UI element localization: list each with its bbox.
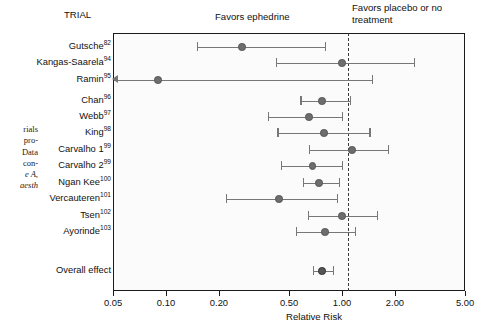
trial-label-webb: Webb97: [79, 110, 111, 121]
point-estimate-marker: [305, 113, 313, 121]
ci-lower-cap: [313, 266, 314, 275]
ci-lower-cap: [296, 227, 297, 236]
ci-lower-cap: [268, 112, 269, 121]
point-estimate-marker: [320, 129, 328, 137]
x-axis-tick: [219, 291, 220, 296]
trial-reference-number: 101: [100, 191, 111, 198]
ci-upper-cap: [339, 178, 340, 187]
ci-lower-cap: [197, 42, 198, 51]
margin-running-text: rials pro- Data con- e A, aesth: [0, 124, 38, 192]
x-axis-tick-label: 5.00: [456, 297, 474, 308]
point-estimate-marker: [238, 43, 246, 51]
point-estimate-marker: [318, 97, 326, 105]
x-axis-tick: [395, 291, 396, 296]
ci-upper-cap: [369, 128, 370, 137]
trial-label-chan: Chan96: [81, 94, 111, 105]
ci-row: [113, 126, 465, 140]
ci-lower-cap: [281, 161, 282, 170]
ci-lower-cap: [276, 58, 277, 67]
ci-row: [113, 225, 465, 239]
margin-line-5: e A,: [0, 169, 38, 180]
favors-placebo-label: Favors placebo or no treatment: [352, 2, 444, 25]
trial-reference-number: 98: [104, 125, 111, 132]
margin-line-2: pro-: [0, 135, 38, 146]
x-axis-title-text: Relative Risk: [286, 311, 342, 322]
trial-label-gutsche: Gutsche82: [69, 40, 111, 51]
trial-label-carvalho-1: Carvalho 199: [58, 143, 111, 154]
ci-row: [113, 73, 465, 87]
ci-lower-cap: [309, 145, 310, 154]
trial-label-ayorinde: Ayorinde103: [63, 225, 111, 236]
ci-row: [113, 94, 465, 108]
trial-name: Kangas-Saarela: [36, 56, 103, 67]
point-estimate-marker: [321, 228, 329, 236]
trial-reference-number: 99: [104, 158, 111, 165]
ci-upper-cap: [355, 227, 356, 236]
ci-upper-cap: [372, 75, 373, 84]
ci-upper-cap: [333, 266, 334, 275]
ci-row: [113, 110, 465, 124]
trial-name: Chan: [81, 94, 103, 105]
x-axis-tick: [342, 291, 343, 296]
point-estimate-marker: [315, 179, 323, 187]
point-estimate-marker: [309, 162, 317, 170]
x-axis-tick-label: 1.00: [333, 297, 351, 308]
point-estimate-marker: [154, 76, 162, 84]
ci-row: [113, 56, 465, 70]
ci-lower-cap: [226, 194, 227, 203]
ci-lower-cap: [308, 211, 309, 220]
trial-column-header: TRIAL: [64, 9, 91, 20]
trial-reference-number: 97: [104, 109, 111, 116]
ci-upper-cap: [325, 42, 326, 51]
x-axis-tick-label: 0.10: [157, 297, 175, 308]
trial-name: Ngan Kee: [58, 176, 100, 187]
ci-upper-cap: [388, 145, 389, 154]
trial-name: Ayorinde: [63, 225, 100, 236]
trial-reference-number: 82: [104, 39, 111, 46]
trial-reference-number: 94: [104, 55, 111, 62]
x-axis-title: Relative Risk: [0, 311, 482, 322]
ci-row: [113, 159, 465, 173]
ci-lower-cap: [300, 96, 301, 105]
trial-label-ramin: Ramin95: [77, 73, 111, 84]
favors-ephedrine-label: Favors ephedrine: [215, 11, 290, 22]
x-axis-tick-label: 2.00: [386, 297, 404, 308]
x-axis-tick-label: 0.50: [280, 297, 298, 308]
trial-reference-number: 95: [104, 72, 111, 79]
ci-upper-cap: [337, 194, 338, 203]
confidence-interval-line: [197, 47, 325, 48]
x-axis-tick: [465, 291, 466, 296]
ci-row: [113, 192, 465, 206]
ci-upper-cap: [342, 112, 343, 121]
ci-lower-cap: [303, 178, 304, 187]
trial-label-tsen: Tsen102: [80, 209, 111, 220]
trial-name: Vercauteren: [49, 192, 100, 203]
trial-label-carvalho-2: Carvalho 299: [58, 159, 111, 170]
point-estimate-marker: [275, 195, 283, 203]
trial-name: Gutsche: [69, 40, 104, 51]
trial-label-kangas-saarela: Kangas-Saarela94: [36, 56, 111, 67]
trial-name: Carvalho 1: [58, 143, 103, 154]
ci-row: [113, 264, 465, 278]
trial-name: Overall effect: [56, 264, 111, 275]
x-axis-tick-label: 0.20: [210, 297, 228, 308]
margin-line-3: Data: [0, 147, 38, 158]
trial-name: Tsen: [80, 209, 100, 220]
confidence-interval-line: [114, 80, 372, 81]
trial-label-king: King98: [85, 126, 111, 137]
ci-row: [113, 209, 465, 223]
margin-line-4: con-: [0, 158, 38, 169]
trial-name: Webb: [79, 110, 103, 121]
ci-upper-cap: [350, 96, 351, 105]
ci-left-arrow-icon: [112, 75, 118, 83]
x-axis-tick: [289, 291, 290, 296]
ci-upper-cap: [342, 161, 343, 170]
trial-label-vercauteren: Vercauteren101: [49, 192, 111, 203]
margin-line-6: aesth: [0, 180, 38, 191]
ci-row: [113, 176, 465, 190]
point-estimate-marker: [338, 59, 346, 67]
point-estimate-marker: [338, 212, 346, 220]
point-estimate-marker: [348, 146, 356, 154]
x-axis-tick-label: 0.05: [104, 297, 122, 308]
x-axis-tick: [166, 291, 167, 296]
